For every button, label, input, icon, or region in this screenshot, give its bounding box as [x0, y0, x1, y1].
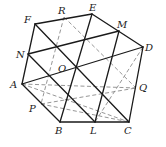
- segment-FC: [35, 24, 129, 122]
- label-M: M: [116, 19, 128, 30]
- label-R: R: [57, 5, 66, 16]
- segment-NM: [28, 31, 119, 54]
- dashed-lines: [22, 17, 143, 122]
- segment-AB: [22, 84, 60, 122]
- hexagon-diagram: A B C D E F M N O P Q R L: [0, 0, 166, 147]
- point-labels: A B C D E F M N O P Q R L: [9, 2, 153, 136]
- label-L: L: [89, 125, 97, 136]
- label-C: C: [124, 125, 132, 136]
- solid-lines: [22, 14, 143, 122]
- label-D: D: [144, 42, 153, 53]
- label-B: B: [54, 125, 62, 136]
- dashed-segment-RP: [41, 17, 64, 104]
- label-E: E: [88, 2, 97, 13]
- label-P: P: [28, 103, 36, 114]
- label-O: O: [58, 63, 66, 74]
- label-F: F: [23, 14, 32, 25]
- label-A: A: [9, 79, 17, 90]
- label-Q: Q: [139, 82, 147, 93]
- dashed-segment-AQ: [22, 84, 136, 88]
- label-N: N: [15, 49, 26, 60]
